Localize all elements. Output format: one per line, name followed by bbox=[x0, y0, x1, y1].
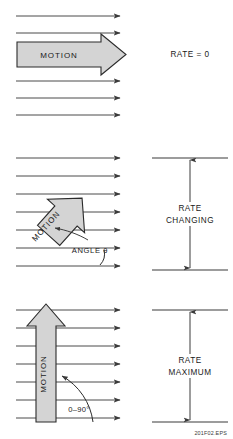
angle-range-label: 0–90° bbox=[68, 405, 89, 414]
motion-label: MOTION bbox=[40, 51, 77, 60]
field-flow-lines-upper bbox=[16, 16, 120, 33]
angle-label: ANGLE θ bbox=[72, 246, 108, 255]
motion-block-arrow: MOTION bbox=[27, 304, 65, 422]
rate-label-parallel: RATE = 0 bbox=[170, 50, 209, 59]
figure-id-label: 201F02.EPS bbox=[194, 430, 227, 436]
rate-label-line2: CHANGING bbox=[166, 216, 214, 225]
field-flow-lines-lower bbox=[16, 81, 120, 115]
angle-arc-group bbox=[62, 376, 93, 422]
motion-rate-diagram: MOTION RATE = 0 bbox=[0, 0, 233, 439]
panel-parallel-motion: MOTION RATE = 0 bbox=[0, 0, 233, 146]
rate-dimension-bracket bbox=[152, 158, 228, 270]
rate-dimension-bracket bbox=[152, 310, 228, 422]
motion-block-arrow: MOTION bbox=[17, 34, 126, 75]
motion-block-arrow bbox=[30, 181, 101, 252]
panel-diagonal-motion: MOTION ANGLE θ RATE CHANGING bbox=[0, 146, 233, 296]
motion-label: MOTION bbox=[39, 355, 48, 392]
angle-arc bbox=[62, 376, 93, 422]
rate-label-line2: MAXIMUM bbox=[168, 368, 211, 377]
panel-perpendicular-motion: MOTION 0–90° RATE MAXIMUM bbox=[0, 296, 233, 439]
rate-label-line1: RATE bbox=[178, 356, 201, 365]
rate-label-line1: RATE bbox=[178, 204, 201, 213]
